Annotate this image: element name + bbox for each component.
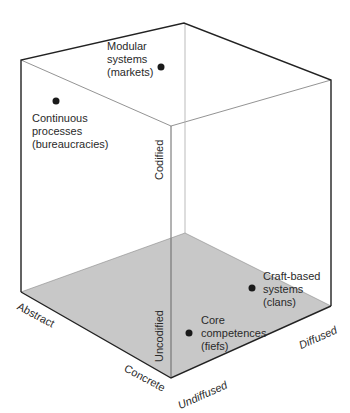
point-continuous xyxy=(53,98,60,105)
point-craft xyxy=(249,285,256,292)
label-continuous: Continuous processes (bureaucracies) xyxy=(32,112,108,151)
label-craft: Craft-based systems (clans) xyxy=(263,270,320,309)
point-modular xyxy=(158,64,165,71)
inner-edge xyxy=(171,80,331,126)
axis-label-codified: Codified xyxy=(153,140,165,180)
axis-label-uncodified: Uncodified xyxy=(153,310,165,362)
cube-diagram xyxy=(0,0,350,413)
label-modular: Modular systems (markets) xyxy=(107,40,153,79)
point-core xyxy=(186,330,193,337)
label-core: Core competences (fiefs) xyxy=(201,314,266,353)
